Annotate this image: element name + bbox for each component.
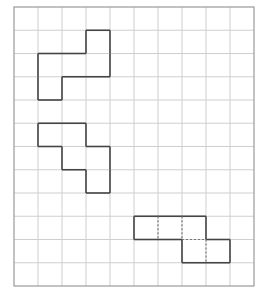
grid-diagram bbox=[0, 0, 270, 304]
shape-2 bbox=[38, 123, 110, 193]
shape-1 bbox=[38, 30, 110, 100]
